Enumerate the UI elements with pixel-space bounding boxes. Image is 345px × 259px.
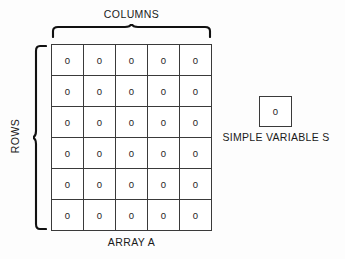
simple-variable-caption: SIMPLE VARIABLE S <box>211 131 341 143</box>
array-cell: 0 <box>84 107 116 138</box>
array-cell: 0 <box>84 76 116 107</box>
rows-label: ROWS <box>9 114 21 158</box>
array-cell: 0 <box>180 200 212 231</box>
array-cell: 0 <box>148 45 180 76</box>
array-cell: 0 <box>84 169 116 200</box>
array-cell: 0 <box>52 45 84 76</box>
array-cell: 0 <box>180 169 212 200</box>
columns-brace-icon <box>51 24 212 38</box>
array-cell: 0 <box>84 138 116 169</box>
array-cell: 0 <box>116 107 148 138</box>
array-cell: 0 <box>180 76 212 107</box>
diagram-canvas: COLUMNS ROWS 000000000000000000000000000… <box>0 0 345 259</box>
array-cell: 0 <box>180 45 212 76</box>
array-cell: 0 <box>52 76 84 107</box>
array-cell: 0 <box>52 138 84 169</box>
simple-variable-cell: 0 <box>259 96 292 127</box>
array-cell: 0 <box>180 138 212 169</box>
array-cell: 0 <box>52 107 84 138</box>
array-cell: 0 <box>116 200 148 231</box>
array-cell: 0 <box>116 45 148 76</box>
array-cell: 0 <box>52 169 84 200</box>
array-cell: 0 <box>52 200 84 231</box>
array-cell: 0 <box>180 107 212 138</box>
array-cell: 0 <box>116 138 148 169</box>
array-cell: 0 <box>148 200 180 231</box>
array-cell: 0 <box>116 76 148 107</box>
array-cell: 0 <box>148 76 180 107</box>
array-cell: 0 <box>84 200 116 231</box>
array-cell: 0 <box>84 45 116 76</box>
array-cell: 0 <box>148 138 180 169</box>
array-caption: ARRAY A <box>51 236 212 248</box>
array-cell: 0 <box>148 107 180 138</box>
array-grid: 000000000000000000000000000000 <box>51 44 212 231</box>
array-cell: 0 <box>116 169 148 200</box>
rows-brace-icon <box>33 44 47 231</box>
array-cell: 0 <box>148 169 180 200</box>
columns-label: COLUMNS <box>51 8 212 20</box>
